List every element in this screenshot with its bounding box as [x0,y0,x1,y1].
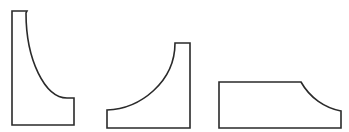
cove-profiles-diagram [0,0,349,132]
low-cove-profile-shape [219,82,341,128]
tall-cove-profile-shape [12,11,74,125]
mirrored-cove-profile-shape [107,43,190,128]
